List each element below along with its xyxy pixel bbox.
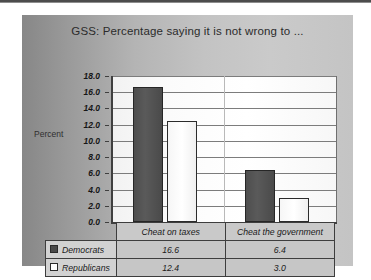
- table-cell-value: 6.4: [225, 241, 334, 259]
- category-divider: [224, 76, 225, 222]
- y-axis-tick-mark: [105, 157, 109, 158]
- y-axis-tick-mark: [105, 190, 109, 191]
- y-axis-tick-label: 16.0: [66, 87, 100, 97]
- table-row: Democrats16.66.4: [46, 241, 335, 259]
- gridline: [113, 76, 337, 77]
- chart-title: GSS: Percentage saying it is not wrong t…: [22, 25, 353, 37]
- y-axis-tick-mark: [105, 206, 109, 207]
- table-row: Republicans12.43.0: [46, 259, 335, 277]
- bar-republicans-1: [279, 198, 309, 222]
- table-cell-value: 16.6: [116, 241, 225, 259]
- y-axis-tick-label: 10.0: [66, 136, 100, 146]
- table-corner-cell: [46, 223, 117, 241]
- table-header-row: Cheat on taxesCheat the government: [46, 223, 335, 241]
- y-axis-tick-mark: [105, 125, 109, 126]
- plot-area: [111, 76, 337, 224]
- chart-panel: GSS: Percentage saying it is not wrong t…: [22, 15, 353, 266]
- bar-democrats-1: [245, 170, 275, 222]
- table-column-header: Cheat on taxes: [116, 223, 225, 241]
- paper-background: GSS: Percentage saying it is not wrong t…: [0, 3, 371, 280]
- y-axis-tick-label: 8.0: [66, 152, 100, 162]
- legend-swatch-icon: [50, 245, 58, 253]
- y-axis-tick-label: 18.0: [66, 71, 100, 81]
- bar-democrats-0: [133, 87, 163, 222]
- legend-swatch-icon: [50, 263, 58, 271]
- y-axis-tick-mark: [105, 173, 109, 174]
- chart-data-table: Cheat on taxesCheat the governmentDemocr…: [45, 222, 335, 277]
- y-axis-tick-mark: [105, 141, 109, 142]
- plot-right-edge: [336, 76, 337, 222]
- y-axis-tick-label: 4.0: [66, 185, 100, 195]
- y-axis-tick-label: 12.0: [66, 120, 100, 130]
- bar-republicans-0: [167, 121, 197, 222]
- y-axis-tick-mark: [105, 92, 109, 93]
- table-cell-value: 3.0: [225, 259, 334, 277]
- y-axis-label: Percent: [34, 129, 63, 139]
- legend-entry-democrats: Democrats: [46, 241, 117, 259]
- table-cell-value: 12.4: [116, 259, 225, 277]
- legend-label: Republicans: [62, 263, 110, 273]
- y-axis-tick-label: 14.0: [66, 103, 100, 113]
- y-axis-tick-label: 6.0: [66, 168, 100, 178]
- legend-label: Democrats: [62, 245, 104, 255]
- y-axis-tick-mark: [105, 108, 109, 109]
- y-axis-tick-label: 2.0: [66, 201, 100, 211]
- table-column-header: Cheat the government: [225, 223, 334, 241]
- legend-entry-republicans: Republicans: [46, 259, 117, 277]
- y-axis-tick-mark: [105, 76, 109, 77]
